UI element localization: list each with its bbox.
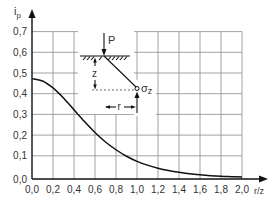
y-tick-label: 0,1 — [13, 150, 27, 161]
y-axis-label: ip — [14, 5, 21, 20]
x-tick-label: 0,0 — [25, 184, 39, 195]
y-tick-label: 0,5 — [13, 68, 27, 79]
x-tick-label: 1,4 — [172, 184, 186, 195]
inset-background — [78, 30, 134, 114]
influence-factor-chart: 0,00,10,20,30,40,50,60,70,00,20,40,60,81… — [0, 0, 279, 205]
y-tick-label: 0,7 — [13, 26, 27, 37]
y-axis-arrow-icon — [29, 9, 36, 18]
chart-svg: 0,00,10,20,30,40,50,60,70,00,20,40,60,81… — [0, 0, 279, 205]
depth-label: z — [92, 68, 97, 79]
y-tick-label: 0,4 — [13, 88, 27, 99]
stress-point-icon — [135, 87, 139, 91]
x-tick-label: 1,6 — [193, 184, 207, 195]
x-tick-label: 1,2 — [151, 184, 165, 195]
x-tick-label: 1,0 — [130, 184, 144, 195]
x-tick-label: 1,8 — [214, 184, 228, 195]
x-tick-label: 0,2 — [46, 184, 60, 195]
y-tick-label: 0,6 — [13, 47, 27, 58]
x-tick-label: 0,8 — [109, 184, 123, 195]
y-tick-label: 0,0 — [13, 174, 27, 185]
x-tick-label: 0,6 — [88, 184, 102, 195]
x-tick-label: 2,0 — [235, 184, 249, 195]
x-tick-label: 0,4 — [67, 184, 81, 195]
y-tick-label: 0,2 — [13, 130, 27, 141]
x-axis-arrow-icon — [259, 176, 268, 183]
y-tick-label: 0,3 — [13, 109, 27, 120]
load-label: P — [108, 34, 115, 46]
x-axis-label: r/z — [254, 186, 264, 196]
